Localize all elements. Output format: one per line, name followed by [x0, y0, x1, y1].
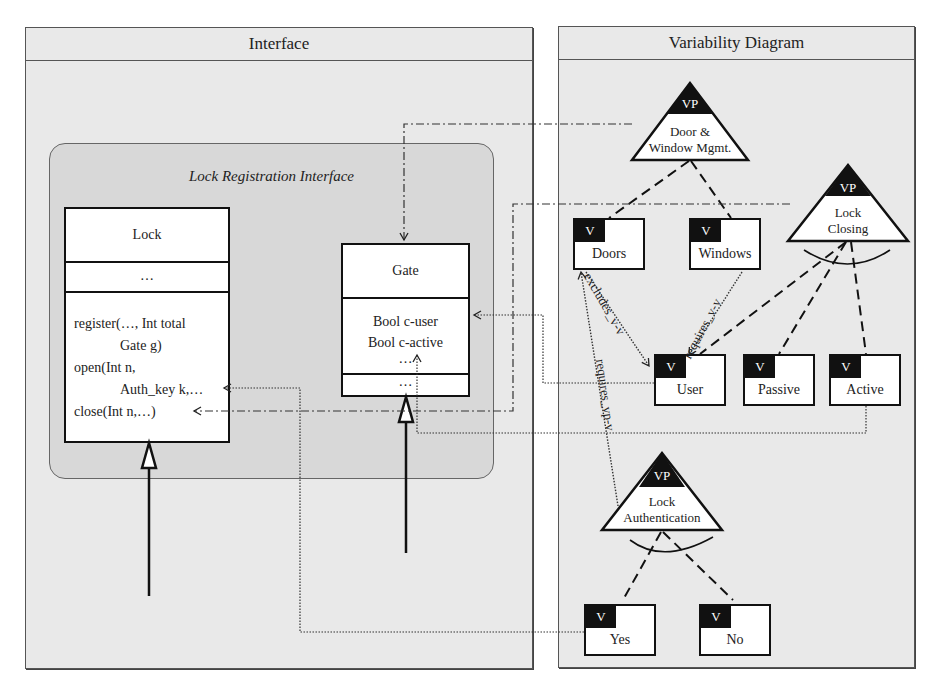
vp-lock-auth-tag: VP: [642, 468, 682, 484]
class-lock-name: Lock: [66, 209, 228, 263]
op-open: open(Int n,: [74, 357, 228, 379]
variant-label: Yes: [586, 632, 654, 648]
variant-tag: V: [831, 356, 861, 378]
variant-yes[interactable]: V Yes: [584, 604, 656, 656]
variability-panel-title: Variability Diagram: [559, 27, 914, 60]
variant-tag: V: [575, 220, 605, 242]
vp-lock-closing[interactable]: Lock Closing: [808, 205, 888, 237]
class-gate-operations: …: [343, 375, 468, 395]
variability-panel: Variability Diagram: [558, 26, 915, 668]
variant-label: Doors: [575, 246, 643, 262]
variant-active[interactable]: V Active: [829, 354, 901, 406]
variant-label: Active: [831, 382, 899, 398]
attr-c-active: Bool c-active: [343, 332, 468, 353]
variant-tag: V: [745, 356, 775, 378]
op-register-cont: Gate g): [74, 335, 228, 357]
vp-lock-authentication[interactable]: Lock Authentication: [612, 494, 712, 526]
variant-no[interactable]: V No: [699, 604, 771, 656]
class-gate-attributes: Bool c-user Bool c-active …: [343, 299, 468, 375]
vp-door-window[interactable]: Door & Window Mgmt.: [632, 124, 748, 156]
variant-windows[interactable]: V Windows: [689, 218, 761, 270]
class-lock[interactable]: Lock … register(…, Int total Gate g) ope…: [64, 207, 230, 443]
variant-passive[interactable]: V Passive: [743, 354, 815, 406]
variant-tag: V: [701, 606, 731, 628]
op-register: register(…, Int total: [74, 313, 228, 335]
variant-tag: V: [691, 220, 721, 242]
variant-tag: V: [656, 356, 686, 378]
group-title: Lock Registration Interface: [50, 168, 493, 185]
interface-panel-title: Interface: [26, 28, 532, 61]
class-gate-name: Gate: [343, 245, 468, 299]
variant-label: User: [656, 382, 724, 398]
variant-user[interactable]: V User: [654, 354, 726, 406]
class-gate[interactable]: Gate Bool c-user Bool c-active … …: [341, 243, 470, 397]
variant-tag: V: [586, 606, 616, 628]
vp-lock-closing-tag: VP: [828, 180, 868, 196]
variant-doors[interactable]: V Doors: [573, 218, 645, 270]
variant-label: No: [701, 632, 769, 648]
class-lock-operations: register(…, Int total Gate g) open(Int n…: [66, 293, 228, 423]
op-close: close(Int n,…): [74, 401, 228, 423]
variant-label: Passive: [745, 382, 813, 398]
vp-door-window-tag: VP: [670, 96, 710, 112]
class-lock-attributes: …: [66, 263, 228, 293]
variant-label: Windows: [691, 246, 759, 262]
attr-more: …: [343, 353, 468, 365]
attr-c-user: Bool c-user: [343, 311, 468, 332]
op-open-cont: Auth_key k,…: [74, 379, 228, 401]
